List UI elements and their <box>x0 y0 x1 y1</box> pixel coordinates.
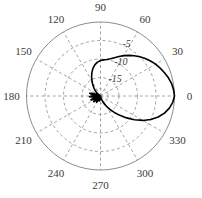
data-layer <box>89 55 174 120</box>
angular-label-150: 150 <box>15 45 32 57</box>
angular-label-120: 120 <box>48 13 65 25</box>
angular-label-330: 330 <box>169 134 186 146</box>
radial-tick-labels: -5-10-15 <box>109 38 131 84</box>
polar-chart-canvas: 0306090120150180210240270300330 -5-10-15 <box>0 0 202 198</box>
radiation-pattern-curve <box>89 55 174 120</box>
polar-plot: 0306090120150180210240270300330 -5-10-15 <box>0 0 202 198</box>
angular-label-90: 90 <box>95 1 107 13</box>
angular-label-210: 210 <box>15 134 32 146</box>
radial-label-5db: -5 <box>122 38 130 49</box>
grid-spoke-240 <box>64 96 101 160</box>
radial-label-10db: -10 <box>114 56 127 67</box>
radial-label-15db: -15 <box>109 73 122 84</box>
angular-label-270: 270 <box>92 179 109 191</box>
angular-label-300: 300 <box>137 167 154 179</box>
angular-label-180: 180 <box>3 90 20 102</box>
angular-label-30: 30 <box>172 45 184 57</box>
angular-label-0: 0 <box>187 90 193 102</box>
grid-spoke-210 <box>36 96 100 133</box>
angular-label-60: 60 <box>140 13 152 25</box>
angular-label-240: 240 <box>48 167 65 179</box>
